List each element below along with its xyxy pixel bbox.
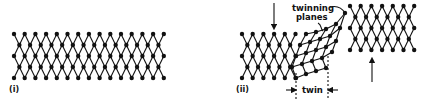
panel-label-i: (i): [9, 85, 19, 94]
label-planes: planes: [296, 12, 328, 22]
twinning-diagram: twinning planes twin (i) (ii): [0, 0, 423, 100]
panel-label-ii: (ii): [236, 85, 249, 94]
leader-line-lower: [318, 23, 323, 31]
panel-i-perfect-lattice: [12, 32, 166, 80]
label-twin: twin: [302, 85, 323, 95]
